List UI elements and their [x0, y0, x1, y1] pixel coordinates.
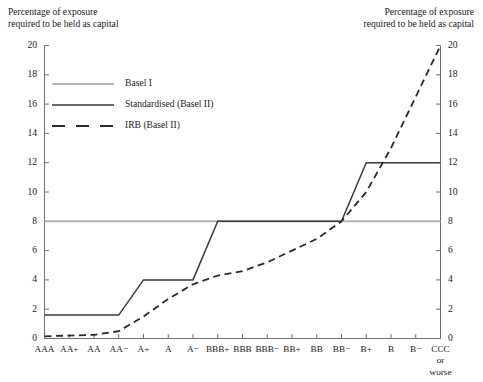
y-axis-right-tick-label: 14	[448, 127, 478, 138]
y-axis-right-tick-label: 10	[448, 186, 478, 197]
y-axis-right-tick-label: 16	[448, 98, 478, 109]
y-axis-left-tick-label: 14	[8, 127, 37, 138]
y-axis-right-tick-label: 0	[448, 332, 478, 343]
y-axis-right-tick-label: 2	[448, 303, 478, 314]
y-axis-right-tick-label: 8	[448, 215, 478, 226]
y-axis-right-tick-label: 18	[448, 68, 478, 79]
legend-label: Basel I	[125, 77, 152, 88]
y-axis-left-tick-label: 20	[8, 39, 37, 50]
legend-label: Standardised (Basel II)	[125, 98, 213, 109]
y-axis-right-tick-label: 12	[448, 156, 478, 167]
y-axis-left-tick-label: 2	[8, 303, 37, 314]
y-axis-right-tick-label: 6	[448, 244, 478, 255]
y-axis-left-tick-label: 8	[8, 215, 37, 226]
y-axis-left-tick-label: 4	[8, 273, 37, 284]
x-axis-tick-label: CCC or worse	[417, 344, 465, 379]
y-axis-left-tick-label: 12	[8, 156, 37, 167]
legend-label: IRB (Basel II)	[125, 119, 180, 130]
y-axis-left-tick-label: 6	[8, 244, 37, 255]
plot-area	[0, 0, 483, 382]
series-line	[45, 163, 441, 315]
series-line	[45, 46, 441, 337]
y-axis-left-tick-label: 0	[8, 332, 37, 343]
y-axis-left-tick-label: 16	[8, 98, 37, 109]
y-axis-right-tick-label: 4	[448, 273, 478, 284]
y-axis-left-tick-label: 10	[8, 186, 37, 197]
chart-figure: Percentage of exposure required to be he…	[0, 0, 483, 382]
y-axis-right-tick-label: 20	[448, 39, 478, 50]
y-axis-left-tick-label: 18	[8, 68, 37, 79]
